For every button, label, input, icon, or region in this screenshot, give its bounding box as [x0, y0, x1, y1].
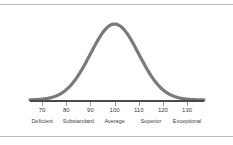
- figure-bottom-rule: [0, 136, 233, 137]
- figure-top-rule: [0, 4, 233, 5]
- x-axis-tick-label: 130: [172, 106, 202, 114]
- x-axis-line: [30, 100, 204, 102]
- distribution-curve: [0, 6, 233, 102]
- plot-area: [0, 6, 233, 102]
- band-label-exceptional: Exceptional: [163, 117, 211, 125]
- bell-curve-figure: 708090100110120130 DeficientSubstandardA…: [0, 0, 233, 145]
